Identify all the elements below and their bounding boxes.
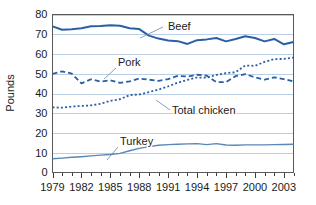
y-tick-label-20: 20: [35, 127, 47, 139]
y-tick-label-50: 50: [35, 68, 47, 80]
x-tick-label-1997: 1997: [214, 181, 238, 193]
x-tick-label-2003: 2003: [272, 181, 296, 193]
annotation-label-beef: Beef: [168, 20, 192, 32]
y-axis-tick-labels: 01020304050607080: [35, 8, 47, 178]
annotation-label-total-chicken: Total chicken: [172, 104, 236, 116]
meat-consumption-line-chart: BeefBeefPorkPorkTotal chickenTotal chick…: [0, 0, 316, 205]
y-axis-title: Pounds: [4, 74, 16, 112]
x-tick-label-1985: 1985: [98, 181, 122, 193]
annotation-label-turkey: Turkey: [120, 135, 154, 147]
y-tick-label-70: 70: [35, 28, 47, 40]
y-tick-label-60: 60: [35, 48, 47, 60]
x-tick-label-1979: 1979: [40, 181, 64, 193]
annotation-label-pork: Pork: [118, 56, 141, 68]
y-tick-label-40: 40: [35, 87, 47, 99]
y-tick-label-0: 0: [41, 166, 47, 178]
x-axis-tick-labels: 197919821985198819911994199720002003: [40, 181, 296, 193]
x-tick-label-1994: 1994: [185, 181, 209, 193]
y-tick-label-10: 10: [35, 147, 47, 159]
y-tick-label-30: 30: [35, 107, 47, 119]
chart-container: BeefBeefPorkPorkTotal chickenTotal chick…: [0, 0, 316, 205]
y-tick-label-80: 80: [35, 8, 47, 20]
x-tick-label-1982: 1982: [69, 181, 93, 193]
x-tick-label-2000: 2000: [243, 181, 267, 193]
x-tick-label-1988: 1988: [127, 181, 151, 193]
x-tick-label-1991: 1991: [156, 181, 180, 193]
